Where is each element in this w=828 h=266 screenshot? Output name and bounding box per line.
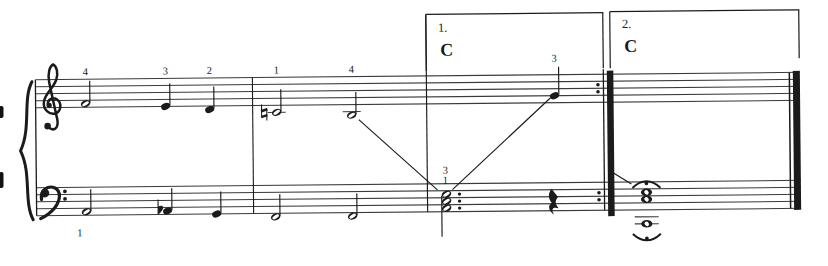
finger-number: 1 [443, 175, 448, 186]
staff-line [37, 208, 801, 215]
bass-staff [36, 180, 801, 215]
staff-line [35, 72, 799, 79]
repeat-dot [597, 191, 601, 195]
volta-top-line [426, 13, 603, 15]
note: 3 [549, 53, 561, 101]
chord-symbol: C [440, 40, 453, 60]
finger-number: 2 [207, 65, 212, 76]
augmentation-dot [458, 199, 461, 202]
staff-line [35, 79, 799, 86]
note: 4 [342, 64, 361, 120]
staff-line [35, 86, 799, 93]
ending2-final-chord [632, 181, 660, 203]
whole-notehead [641, 220, 652, 228]
final-thick-bar [793, 71, 801, 210]
repeat-dot [596, 90, 600, 94]
finger-number: 3 [163, 65, 168, 76]
volta-bracket-1: 1.C [426, 13, 604, 71]
staff-line [37, 201, 801, 208]
finger-number: 1 [274, 64, 279, 75]
treble-voice: 432143 [79, 53, 560, 123]
chord-symbol: C [624, 36, 637, 56]
inverted-fermata-icon [633, 234, 661, 241]
system-start-barline [35, 80, 36, 216]
flat-accidental [158, 199, 163, 214]
finger-number: 4 [83, 66, 89, 77]
note: 1 [77, 189, 93, 238]
chord-notehead [641, 195, 652, 203]
hand-guide-line [359, 119, 438, 191]
scan-edge-artifact [0, 172, 4, 188]
system-brace [20, 82, 33, 220]
staff-line [36, 187, 800, 194]
ending1-chord: 31 [440, 165, 461, 237]
end-repeat-barline [596, 69, 615, 216]
finger-number: 4 [349, 64, 355, 75]
ending-number: 1. [438, 21, 448, 35]
staff-line [36, 100, 800, 107]
note [158, 188, 173, 215]
staff-line [37, 194, 801, 201]
final-barline [789, 71, 801, 210]
natural-accidental [261, 104, 267, 120]
finger-number: 1 [77, 227, 82, 238]
treble-clef [43, 64, 60, 129]
repeat-thick-bar [607, 71, 615, 217]
note: 1 [261, 64, 286, 120]
note [347, 194, 359, 221]
note [270, 194, 282, 221]
note: 3 [160, 65, 172, 111]
score-system: 1.C2.C432143131 [19, 10, 801, 246]
ending2-low-note [633, 217, 661, 241]
volta-right-tick [603, 13, 604, 68]
note: 4 [80, 66, 92, 108]
staff-line [36, 180, 800, 187]
scan-edge-artifact [0, 106, 4, 118]
volta-left-tick [426, 14, 427, 70]
note [211, 191, 222, 218]
volta-bracket-2: 2.C [610, 10, 800, 68]
volta-left-tick [610, 12, 611, 68]
chord-notehead [641, 188, 652, 196]
staff-line [36, 93, 800, 100]
augmentation-dot [458, 206, 461, 209]
augmentation-dot [458, 192, 461, 195]
barline [252, 78, 253, 214]
note: 2 [204, 65, 216, 114]
barlines [35, 11, 801, 222]
sheet-music-canvas: 1.C2.C432143131 [0, 0, 828, 266]
ending-number: 2. [622, 17, 632, 31]
bass-clef [40, 187, 67, 219]
repeat-dot [597, 198, 601, 202]
finger-number: 3 [552, 53, 557, 64]
treble-staff [35, 72, 800, 107]
sheet-music-page: 1.C2.C432143131 [0, 0, 828, 266]
hand-guide-line [452, 98, 552, 190]
volta-top-line [610, 10, 799, 12]
repeat-dot [596, 83, 600, 87]
final-thin-bar [789, 72, 790, 208]
